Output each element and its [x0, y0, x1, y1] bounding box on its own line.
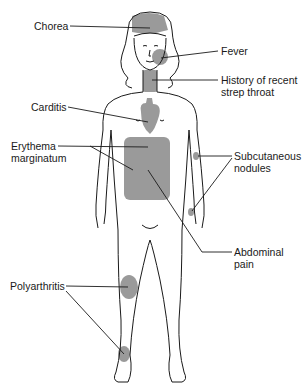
fever-leader	[161, 51, 218, 58]
label-chorea: Chorea	[34, 20, 68, 32]
label-polyarthritis: Polyarthritis	[10, 280, 65, 292]
brain-region	[132, 13, 168, 34]
rheumatic-fever-diagram: Chorea Fever History of recent strep thr…	[0, 0, 304, 388]
heart-region	[141, 98, 160, 134]
label-erythema-marginatum: Erythema marginatum	[11, 140, 66, 164]
nodules-leader-2	[192, 158, 232, 211]
carditis-leader	[68, 107, 148, 122]
label-fever: Fever	[221, 45, 248, 57]
label-strep-throat: History of recent strep throat	[221, 74, 297, 98]
body-illustration	[0, 0, 304, 388]
label-abdominal-pain: Abdominal pain	[234, 246, 284, 270]
label-subcutaneous-nodules: Subcutaneous nodules	[234, 150, 301, 174]
label-carditis: Carditis	[31, 101, 67, 113]
polyarthritis-leader-2	[66, 291, 124, 354]
throat-region	[143, 70, 157, 92]
